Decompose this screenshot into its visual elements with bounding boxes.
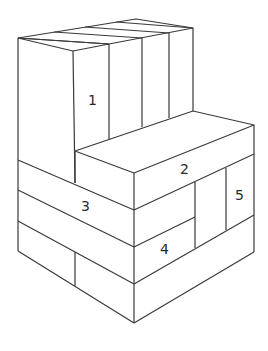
label-block-5: 5 — [235, 188, 244, 202]
label-block-3: 3 — [81, 199, 90, 213]
label-block-1: 1 — [88, 93, 97, 107]
block-stack-diagram: 1 2 3 4 5 — [0, 0, 268, 351]
left-face-courses — [18, 160, 134, 323]
block-1-outline — [18, 19, 193, 183]
label-block-4: 4 — [160, 242, 169, 256]
label-block-2: 2 — [180, 162, 189, 176]
block-2-outline — [75, 111, 254, 210]
block-outlines — [0, 0, 268, 351]
right-face-courses — [134, 154, 254, 323]
